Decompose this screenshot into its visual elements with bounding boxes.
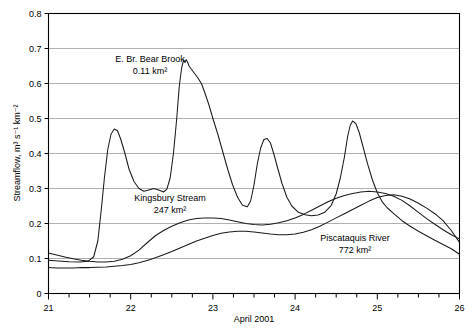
- y-axis-title: Streamflow, m³ s⁻¹ km⁻²: [12, 104, 22, 201]
- streamflow-hydrograph-figure: 00.10.20.30.40.50.60.70.8 212223242526 E…: [0, 0, 475, 328]
- x-tick-label: 21: [43, 303, 53, 313]
- y-tick-label: 0.2: [29, 219, 42, 229]
- series-annotation-label: Piscataquis River: [320, 233, 390, 243]
- series-annotation-label: 0.11 km²: [133, 66, 167, 76]
- y-tick-label: 0.6: [29, 79, 42, 89]
- series-annotation-label: 247 km²: [154, 205, 187, 215]
- series-line: [49, 195, 460, 268]
- x-tick-labels: 212223242526: [43, 303, 464, 313]
- series-annotation-label: Kingsbury Stream: [134, 193, 206, 203]
- x-axis-title: April 2001: [234, 314, 275, 324]
- series-lines: [49, 60, 460, 268]
- y-tick-labels: 00.10.20.30.40.50.60.70.8: [29, 9, 42, 299]
- series-line: [49, 191, 460, 262]
- y-tick-label: 0: [36, 289, 41, 299]
- y-tick-label: 0.3: [29, 184, 42, 194]
- chart-svg: 00.10.20.30.40.50.60.70.8 212223242526 E…: [0, 0, 475, 328]
- x-tick-label: 25: [372, 303, 382, 313]
- x-tick-label: 24: [290, 303, 300, 313]
- x-tick-label: 23: [208, 303, 218, 313]
- x-tick-label: 22: [126, 303, 136, 313]
- y-tick-label: 0.1: [29, 254, 42, 264]
- x-tick-label: 26: [454, 303, 464, 313]
- series-annotation-label: 772 km²: [339, 245, 372, 255]
- y-tick-label: 0.7: [29, 44, 42, 54]
- y-tick-label: 0.4: [29, 149, 42, 159]
- y-tick-label: 0.5: [29, 114, 42, 124]
- y-tick-label: 0.8: [29, 9, 42, 19]
- gridlines: [49, 49, 460, 259]
- series-annotation-label: E. Br. Bear Brook: [115, 54, 185, 64]
